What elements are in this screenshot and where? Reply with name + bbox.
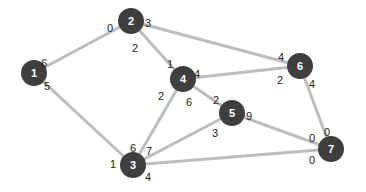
port-label: 2 bbox=[158, 90, 164, 102]
node-3: 3 bbox=[120, 152, 146, 178]
node-label: 1 bbox=[31, 67, 37, 79]
node-label: 5 bbox=[229, 107, 235, 119]
node-4: 4 bbox=[170, 66, 196, 92]
port-label: 4 bbox=[145, 171, 151, 183]
port-label: 3 bbox=[145, 17, 151, 29]
node-5: 5 bbox=[219, 100, 245, 126]
port-label: 6 bbox=[130, 142, 136, 154]
node-label: 2 bbox=[128, 15, 134, 27]
node-7: 7 bbox=[318, 136, 344, 162]
port-label: 9 bbox=[246, 110, 252, 122]
port-label: 0 bbox=[324, 126, 330, 138]
port-label: 1 bbox=[167, 58, 173, 70]
port-label: 2 bbox=[277, 74, 283, 86]
edge-2-6 bbox=[131, 21, 300, 66]
port-label: 0 bbox=[107, 22, 113, 34]
port-label: 4 bbox=[278, 51, 284, 63]
port-label: 6 bbox=[41, 57, 47, 69]
port-label: 6 bbox=[186, 96, 192, 108]
port-label: 2 bbox=[213, 94, 219, 106]
node-label: 6 bbox=[297, 60, 303, 72]
graph-diagram: 1234567 6503214262934240001674 bbox=[0, 0, 366, 192]
port-label: 0 bbox=[309, 154, 315, 166]
port-label: 3 bbox=[212, 127, 218, 139]
port-label: 7 bbox=[146, 145, 152, 157]
node-label: 4 bbox=[180, 73, 187, 85]
port-label: 0 bbox=[309, 132, 315, 144]
edges-layer bbox=[34, 21, 331, 165]
port-label: 5 bbox=[44, 80, 50, 92]
node-label: 7 bbox=[328, 143, 334, 155]
port-label: 4 bbox=[194, 68, 200, 80]
port-label: 4 bbox=[309, 78, 315, 90]
port-label: 2 bbox=[132, 42, 138, 54]
node-6: 6 bbox=[287, 53, 313, 79]
edge-3-7 bbox=[133, 149, 331, 165]
node-label: 3 bbox=[130, 159, 136, 171]
port-labels-layer: 6503214262934240001674 bbox=[41, 17, 330, 183]
port-label: 1 bbox=[110, 158, 116, 170]
edge-1-2 bbox=[34, 21, 131, 73]
node-2: 2 bbox=[118, 8, 144, 34]
